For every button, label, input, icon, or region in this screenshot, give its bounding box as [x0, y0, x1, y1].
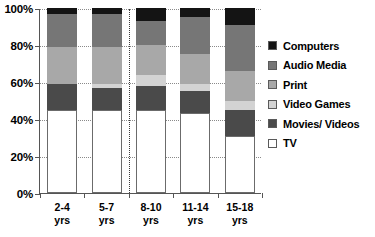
legend-item-audio-media[interactable]: Audio Media [268, 56, 372, 76]
bar-segment-computers[interactable] [47, 8, 77, 14]
y-axis-tick [35, 157, 40, 158]
plot-area: 0%20%40%60%80%100% 2-4yrs5-7yrs8-10yrs11… [39, 9, 261, 194]
legend-item-label: TV [283, 137, 297, 149]
y-axis-tick [35, 46, 40, 47]
x-axis-label-line1: 8-10 [140, 201, 161, 214]
y-axis-label: 0% [17, 188, 33, 200]
bar-segment-tv[interactable] [136, 110, 166, 193]
category-separator-line [129, 9, 130, 193]
bar-segment-print[interactable] [225, 71, 255, 101]
x-axis-tick [129, 193, 130, 198]
bar-segment-video-games[interactable] [136, 75, 166, 86]
y-axis-tick [35, 120, 40, 121]
y-axis-label: 100% [4, 3, 33, 15]
legend-item-label: Video Games [283, 98, 350, 110]
legend-item-print[interactable]: Print [268, 75, 372, 95]
legend-item-tv[interactable]: TV [268, 134, 372, 154]
bar-segment-movies-videos[interactable] [225, 110, 255, 136]
bar-segment-movies-videos[interactable] [92, 88, 122, 110]
bar-segment-audio-media[interactable] [47, 14, 77, 47]
x-axis-label: 5-7yrs [99, 201, 115, 226]
bar-segment-audio-media[interactable] [180, 17, 210, 54]
bar-segment-print[interactable] [47, 47, 77, 84]
y-axis-tick [35, 9, 40, 10]
legend-item-movies-videos[interactable]: Movies/ Videos [268, 114, 372, 134]
bar-8-10[interactable] [136, 9, 166, 193]
x-axis-label-line1: 2-4 [54, 201, 70, 214]
y-axis-label: 80% [11, 40, 33, 52]
x-axis-label-line2: yrs [99, 214, 115, 227]
x-axis-label-line1: 15-18 [226, 201, 253, 214]
bar-segment-print[interactable] [136, 45, 166, 75]
x-axis-label: 8-10yrs [140, 201, 161, 226]
bar-segment-video-games[interactable] [225, 101, 255, 110]
bar-segment-computers[interactable] [180, 8, 210, 17]
bar-segment-tv[interactable] [47, 110, 77, 193]
bar-segment-movies-videos[interactable] [136, 86, 166, 110]
legend-item-computers[interactable]: Computers [268, 36, 372, 56]
bar-segment-computers[interactable] [225, 8, 255, 25]
x-axis-label-line2: yrs [226, 214, 253, 227]
y-axis-label: 20% [11, 151, 33, 163]
y-axis-tick [35, 83, 40, 84]
y-axis-label: 40% [11, 114, 33, 126]
x-axis-tick [262, 193, 263, 198]
x-axis-label: 11-14yrs [182, 201, 208, 226]
legend-item-label: Audio Media [283, 59, 346, 71]
legend-swatch-icon [268, 100, 277, 109]
stacked-bar-chart: 0%20%40%60%80%100% 2-4yrs5-7yrs8-10yrs11… [0, 0, 375, 237]
bar-segment-print[interactable] [180, 54, 210, 84]
x-axis-tick [40, 193, 41, 198]
legend: ComputersAudio MediaPrintVideo GamesMovi… [268, 36, 372, 153]
legend-item-label: Computers [283, 40, 339, 52]
bar-11-14[interactable] [180, 9, 210, 193]
legend-swatch-icon [268, 61, 277, 70]
x-axis-tick [173, 193, 174, 198]
bar-5-7[interactable] [92, 9, 122, 193]
bar-segment-computers[interactable] [92, 8, 122, 14]
x-axis-label-line1: 5-7 [99, 201, 115, 214]
legend-item-label: Print [283, 79, 307, 91]
bar-15-18[interactable] [225, 9, 255, 193]
bar-segment-video-games[interactable] [180, 84, 210, 91]
bar-segment-audio-media[interactable] [136, 21, 166, 45]
legend-swatch-icon [268, 80, 277, 89]
bar-segment-audio-media[interactable] [225, 25, 255, 71]
x-axis-label: 15-18yrs [226, 201, 253, 226]
bar-segment-print[interactable] [92, 47, 122, 84]
legend-item-video-games[interactable]: Video Games [268, 95, 372, 115]
x-axis-label-line2: yrs [54, 214, 70, 227]
legend-swatch-icon [268, 119, 277, 128]
bar-segment-audio-media[interactable] [92, 14, 122, 47]
bar-segment-tv[interactable] [225, 136, 255, 193]
x-axis-label-line1: 11-14 [182, 201, 208, 214]
x-axis-label-line2: yrs [140, 214, 161, 227]
x-axis-label: 2-4yrs [54, 201, 70, 226]
bar-segment-movies-videos[interactable] [47, 84, 77, 110]
legend-swatch-icon [268, 139, 277, 148]
bar-segment-computers[interactable] [136, 8, 166, 21]
bar-segment-tv[interactable] [180, 113, 210, 193]
x-axis-label-line2: yrs [182, 214, 208, 227]
x-axis-tick [84, 193, 85, 198]
bar-segment-video-games[interactable] [92, 84, 122, 88]
y-axis-label: 60% [11, 77, 33, 89]
legend-item-label: Movies/ Videos [283, 118, 359, 130]
bar-segment-movies-videos[interactable] [180, 91, 210, 113]
bar-segment-tv[interactable] [92, 110, 122, 193]
x-axis-tick [218, 193, 219, 198]
legend-swatch-icon [268, 41, 277, 50]
bar-2-4[interactable] [47, 9, 77, 193]
